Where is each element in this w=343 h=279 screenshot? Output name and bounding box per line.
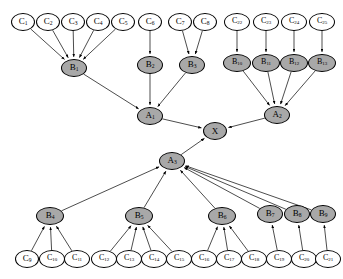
graph-node-c4[interactable]: C4 <box>86 13 110 31</box>
graph-node-c2[interactable]: C2 <box>36 13 60 31</box>
graph-node-c1[interactable]: C1 <box>11 13 35 31</box>
node-label: C13 <box>124 254 134 263</box>
graph-node-c5[interactable]: C5 <box>111 13 135 31</box>
graph-node-c3[interactable]: C3 <box>61 13 85 31</box>
node-label: A1 <box>145 111 154 121</box>
edge-c12-to-b5 <box>110 226 131 251</box>
graph-node-b3[interactable]: B3 <box>179 56 205 74</box>
node-label: A2 <box>272 110 281 120</box>
graph-node-c25[interactable]: C25 <box>309 13 335 31</box>
edge-b1-to-a1 <box>84 74 139 109</box>
node-label-subscript: 20 <box>304 258 309 263</box>
node-label-subscript: 2 <box>50 20 53 26</box>
node-label-subscript: 7 <box>182 20 185 26</box>
graph-node-a3[interactable]: A3 <box>159 152 185 170</box>
node-label-subscript: 14 <box>154 258 159 263</box>
node-label-subscript: 1 <box>152 114 155 120</box>
node-label-subscript: 13 <box>322 62 327 67</box>
graph-node-c18[interactable]: C18 <box>241 250 267 268</box>
node-label: B3 <box>188 60 197 70</box>
graph-node-c12[interactable]: C12 <box>91 250 117 268</box>
graph-node-b10[interactable]: B10 <box>223 54 251 72</box>
node-label: X <box>212 127 219 136</box>
graph-node-b8[interactable]: B8 <box>284 205 310 223</box>
node-label: C2 <box>44 17 53 27</box>
edge-c21-to-b9 <box>324 225 327 250</box>
graph-node-c23[interactable]: C23 <box>253 13 279 31</box>
graph-node-b13[interactable]: B13 <box>308 54 336 72</box>
edge-b8-to-a3 <box>185 167 286 210</box>
graph-node-a2[interactable]: A2 <box>264 106 290 124</box>
graph-node-a1[interactable]: A1 <box>137 107 163 125</box>
node-label: C25 <box>317 17 327 26</box>
node-label-subscript: 1 <box>76 66 79 72</box>
node-label-subscript: 10 <box>237 62 242 67</box>
node-label-subscript: 10 <box>52 258 57 263</box>
node-label-subscript: 6 <box>224 214 227 220</box>
node-label: C21 <box>323 254 333 263</box>
graph-node-c10[interactable]: C10 <box>39 250 65 268</box>
graph-node-c11[interactable]: C11 <box>64 250 90 268</box>
edge-c9-to-b4 <box>31 226 44 250</box>
edge-c11-to-b4 <box>56 226 71 251</box>
graph-node-c15[interactable]: C15 <box>166 250 192 268</box>
node-label: B5 <box>135 211 144 221</box>
graph-node-b12[interactable]: B12 <box>280 54 308 72</box>
node-label: C1 <box>19 17 28 27</box>
graph-node-b4[interactable]: B4 <box>36 207 64 225</box>
node-label: C19 <box>274 254 284 263</box>
graph-node-x[interactable]: X <box>203 122 227 140</box>
graph-node-c16[interactable]: C16 <box>191 250 217 268</box>
node-label-subscript: 9 <box>325 212 328 218</box>
graph-node-c22[interactable]: C22 <box>224 13 250 31</box>
node-label: C8 <box>201 17 210 27</box>
graph-node-c7[interactable]: C7 <box>168 13 192 31</box>
graph-node-c13[interactable]: C13 <box>116 250 142 268</box>
node-label-subscript: 2 <box>152 63 155 69</box>
node-label: C10 <box>47 254 57 263</box>
edge-c18-to-b6 <box>229 226 248 251</box>
node-label-subscript: 21 <box>328 258 333 263</box>
diagram-canvas: C1C2C3C4C5C6C7C8C22C23C24C25B1B2B3B10B11… <box>0 0 343 279</box>
node-label: C24 <box>289 17 299 26</box>
graph-node-c9[interactable]: C9 <box>15 250 39 268</box>
edge-c20-to-b8 <box>299 225 303 250</box>
node-label-subscript: 5 <box>141 214 144 220</box>
edge-c16-to-b6 <box>208 227 218 251</box>
node-label-subscript: 18 <box>254 258 259 263</box>
graph-node-b9[interactable]: B9 <box>310 205 336 223</box>
node-label-subscript: 11 <box>266 62 271 67</box>
node-label-subscript: 1 <box>25 20 28 26</box>
node-label: A3 <box>167 156 176 166</box>
graph-node-b5[interactable]: B5 <box>125 207 153 225</box>
graph-node-c17[interactable]: C17 <box>216 250 242 268</box>
edge-a1-to-x <box>162 119 201 128</box>
graph-node-c6[interactable]: C6 <box>138 13 162 31</box>
edge-b11-to-a2 <box>268 72 275 104</box>
edge-b6-to-a3 <box>180 170 215 208</box>
graph-node-c19[interactable]: C19 <box>266 250 292 268</box>
node-label: C7 <box>176 17 185 27</box>
graph-node-c21[interactable]: C21 <box>315 250 341 268</box>
graph-node-b11[interactable]: B11 <box>252 54 280 72</box>
graph-node-c24[interactable]: C24 <box>281 13 307 31</box>
edge-b10-to-a2 <box>243 71 269 105</box>
node-label-subscript: 25 <box>322 21 327 26</box>
node-label-subscript: 8 <box>207 20 210 26</box>
graph-node-b2[interactable]: B2 <box>137 56 163 74</box>
node-label: B4 <box>46 211 55 221</box>
graph-node-b7[interactable]: B7 <box>257 205 283 223</box>
node-label: B1 <box>70 63 79 73</box>
node-label-subscript: 24 <box>294 21 299 26</box>
graph-node-b6[interactable]: B6 <box>208 207 236 225</box>
graph-node-c8[interactable]: C8 <box>193 13 217 31</box>
edge-c3-to-b1 <box>73 31 74 57</box>
graph-node-c20[interactable]: C20 <box>291 250 317 268</box>
node-label-subscript: 7 <box>272 212 275 218</box>
node-label-subscript: 12 <box>104 258 109 263</box>
node-label-subscript: 15 <box>179 258 184 263</box>
edge-c17-to-b6 <box>224 227 228 250</box>
graph-node-c14[interactable]: C14 <box>141 250 167 268</box>
graph-node-b1[interactable]: B1 <box>61 59 87 77</box>
node-label-subscript: 13 <box>129 258 134 263</box>
